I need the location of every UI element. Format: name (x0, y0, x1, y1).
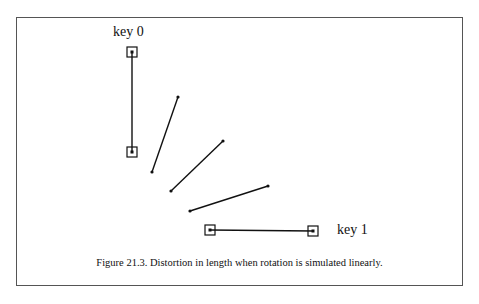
figure-caption: Figure 21.3. Distortion in length when r… (16, 257, 463, 268)
key1-segment (205, 225, 318, 236)
key1-label: key 1 (337, 222, 368, 238)
interpolated-segment-3 (188, 184, 269, 212)
interpolated-segment-1 (150, 95, 179, 173)
key0-segment (127, 47, 137, 157)
key0-label: key 0 (113, 24, 144, 40)
interpolated-segment-2 (169, 139, 224, 192)
